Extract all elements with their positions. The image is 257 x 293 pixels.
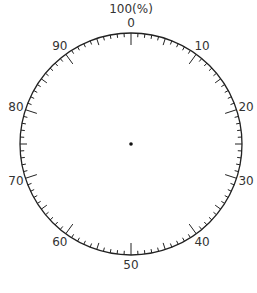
tick-mark xyxy=(50,68,53,71)
tick-label-20: 20 xyxy=(238,100,253,114)
tick-mark xyxy=(22,123,26,124)
tick-mark xyxy=(78,47,80,51)
tick-label-40: 40 xyxy=(194,235,209,249)
tick-mark xyxy=(97,38,99,45)
tick-mark xyxy=(221,201,224,203)
tick-mark xyxy=(31,97,35,99)
tick-mark xyxy=(189,224,196,234)
tick-mark xyxy=(213,73,216,76)
tick-mark xyxy=(110,249,111,253)
tick-mark xyxy=(25,175,36,179)
dial-title: 100(%) xyxy=(109,2,153,16)
tick-label-80: 80 xyxy=(8,100,23,114)
tick-mark xyxy=(72,50,74,53)
tick-mark xyxy=(41,79,47,83)
tick-mark xyxy=(117,250,118,254)
tick-mark xyxy=(144,250,145,254)
tick-mark xyxy=(37,201,40,203)
tick-mark xyxy=(189,54,196,64)
tick-mark xyxy=(209,217,212,220)
tick-mark xyxy=(204,63,207,66)
tick-mark xyxy=(228,190,232,192)
tick-mark xyxy=(78,238,80,242)
tick-mark xyxy=(72,234,74,237)
tick-mark xyxy=(177,44,179,48)
tick-mark xyxy=(158,248,159,252)
tick-mark xyxy=(236,123,240,124)
tick-mark xyxy=(37,85,40,87)
tick-mark xyxy=(215,205,221,209)
tick-mark xyxy=(55,63,58,66)
tick-mark xyxy=(28,103,32,104)
tick-label-30: 30 xyxy=(238,174,253,188)
tick-mark xyxy=(237,157,241,158)
tick-mark xyxy=(209,68,212,71)
tick-label-70: 70 xyxy=(8,174,23,188)
tick-mark xyxy=(50,217,53,220)
tick-mark xyxy=(31,190,35,192)
tick-mark xyxy=(163,38,165,45)
tick-mark xyxy=(90,41,91,45)
tick-mark xyxy=(60,226,63,229)
tick-mark xyxy=(21,130,25,131)
tick-label-50: 50 xyxy=(123,258,138,272)
tick-mark xyxy=(41,205,47,209)
tick-mark xyxy=(235,116,239,117)
tick-mark xyxy=(151,249,152,253)
tick-mark xyxy=(45,73,48,76)
tick-mark xyxy=(215,79,221,83)
tick-mark xyxy=(103,36,104,40)
tick-mark xyxy=(221,85,224,87)
tick-mark xyxy=(55,222,58,225)
center-dot xyxy=(129,142,133,146)
tick-mark xyxy=(158,36,159,40)
tick-mark xyxy=(28,183,32,184)
tick-mark xyxy=(34,196,38,198)
tick-mark xyxy=(144,34,145,38)
tick-mark xyxy=(225,196,229,198)
tick-mark xyxy=(237,130,241,131)
tick-mark xyxy=(188,234,190,237)
tick-mark xyxy=(90,243,91,247)
tick-mark xyxy=(177,241,179,245)
tick-mark xyxy=(230,183,234,184)
tick-mark xyxy=(60,58,63,61)
tick-mark xyxy=(225,91,229,93)
tick-mark xyxy=(34,91,38,93)
tick-mark xyxy=(188,50,190,53)
tick-mark xyxy=(45,212,48,215)
tick-mark xyxy=(84,44,86,48)
tick-mark xyxy=(21,157,25,158)
tick-mark xyxy=(170,41,171,45)
tick-mark xyxy=(183,238,185,242)
tick-mark xyxy=(235,171,239,172)
tick-mark xyxy=(25,110,36,114)
tick-mark xyxy=(151,35,152,39)
percentage-dial: 100(%) 0102030405060708090 xyxy=(0,0,257,293)
tick-mark xyxy=(199,226,202,229)
tick-mark xyxy=(23,116,27,117)
tick-mark xyxy=(22,164,26,165)
tick-mark xyxy=(170,243,171,247)
tick-mark xyxy=(183,47,185,51)
tick-mark xyxy=(103,248,104,252)
tick-mark xyxy=(225,175,236,179)
tick-mark xyxy=(84,241,86,245)
tick-mark xyxy=(236,164,240,165)
tick-label-90: 90 xyxy=(52,39,67,53)
tick-mark xyxy=(230,103,234,104)
tick-mark xyxy=(66,224,73,234)
tick-mark xyxy=(23,171,27,172)
tick-mark xyxy=(213,212,216,215)
tick-label-10: 10 xyxy=(194,39,209,53)
tick-mark xyxy=(228,97,232,99)
tick-mark xyxy=(163,243,165,250)
tick-mark xyxy=(97,243,99,250)
tick-label-60: 60 xyxy=(52,235,67,249)
tick-label-0: 0 xyxy=(127,16,135,30)
tick-mark xyxy=(204,222,207,225)
tick-mark xyxy=(225,110,236,114)
tick-mark xyxy=(66,54,73,64)
tick-mark xyxy=(110,35,111,39)
tick-mark xyxy=(199,58,202,61)
